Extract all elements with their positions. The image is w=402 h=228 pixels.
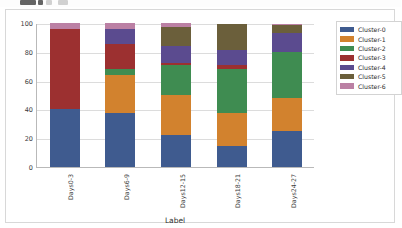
bar-segment-Cluster-1-Days6-9[interactable] <box>105 75 135 113</box>
x-tick-label: Days12-15 <box>179 174 186 208</box>
bar-Days12-15[interactable] <box>161 23 191 167</box>
bar-segment-Cluster-0-Days18-21[interactable] <box>217 146 247 167</box>
bar-segment-Cluster-6-Days6-9[interactable] <box>105 23 135 29</box>
bar-segment-Cluster-2-Days24-27[interactable] <box>272 52 302 98</box>
bar-segment-Cluster-5-Days12-15[interactable] <box>161 27 191 46</box>
bar-segment-Cluster-1-Days18-21[interactable] <box>217 113 247 146</box>
bar-segment-Cluster-5-Days18-21[interactable] <box>217 24 247 50</box>
legend-label: Cluster-3 <box>358 54 386 61</box>
bar-Days18-21[interactable] <box>217 24 247 167</box>
legend-label: Cluster-4 <box>358 64 386 71</box>
legend-item-Cluster-3[interactable]: Cluster-3 <box>340 53 398 62</box>
bar-segment-Cluster-5-Days24-27[interactable] <box>272 25 302 33</box>
bar-segment-Cluster-2-Days18-21[interactable] <box>217 69 247 113</box>
y-tick-label: 80 <box>25 49 33 57</box>
y-tick-label: 40 <box>25 106 33 114</box>
legend-item-Cluster-1[interactable]: Cluster-1 <box>340 34 398 43</box>
x-axis-title: Label <box>36 216 314 225</box>
legend-swatch-Cluster-6 <box>340 83 354 89</box>
bar-segment-Cluster-2-Days6-9[interactable] <box>105 69 135 75</box>
bar-segment-Cluster-6-Days12-15[interactable] <box>161 23 191 27</box>
bar-segment-Cluster-2-Days12-15[interactable] <box>161 65 191 95</box>
bar-segment-Cluster-0-Days0-3[interactable] <box>50 109 80 167</box>
bar-segment-Cluster-1-Days24-27[interactable] <box>272 98 302 130</box>
bar-segment-Cluster-6-Days0-3[interactable] <box>50 23 80 29</box>
legend-label: Cluster-1 <box>358 36 386 43</box>
bar-segment-Cluster-3-Days6-9[interactable] <box>105 44 135 69</box>
bar-segment-Cluster-4-Days6-9[interactable] <box>105 29 135 45</box>
legend-swatch-Cluster-2 <box>340 46 354 52</box>
bar-segment-Cluster-1-Days12-15[interactable] <box>161 95 191 135</box>
toolbar-tool-3[interactable] <box>46 0 52 5</box>
legend-item-Cluster-0[interactable]: Cluster-0 <box>340 25 398 34</box>
bar-segment-Cluster-3-Days18-21[interactable] <box>217 65 247 69</box>
y-tick-label: 60 <box>25 78 33 86</box>
legend-item-Cluster-5[interactable]: Cluster-5 <box>340 72 398 81</box>
legend-label: Cluster-0 <box>358 26 386 33</box>
bar-segment-Cluster-0-Days12-15[interactable] <box>161 135 191 167</box>
x-tick-label: Days24-27 <box>290 174 297 208</box>
y-tick-label: 20 <box>25 135 33 143</box>
toolbar-tool-1[interactable] <box>20 0 36 5</box>
bar-segment-Cluster-4-Days24-27[interactable] <box>272 33 302 52</box>
bar-segment-Cluster-4-Days12-15[interactable] <box>161 46 191 63</box>
toolbar-strip <box>0 0 401 7</box>
legend-item-Cluster-6[interactable]: Cluster-6 <box>340 81 398 90</box>
x-tick-label: Days18-21 <box>234 174 241 208</box>
bar-segment-Cluster-3-Days12-15[interactable] <box>161 63 191 65</box>
legend-item-Cluster-2[interactable]: Cluster-2 <box>340 44 398 53</box>
x-tick-label: Days0-3 <box>67 174 74 200</box>
toolbar-tool-4[interactable] <box>58 0 68 5</box>
bar-Days6-9[interactable] <box>105 23 135 167</box>
legend-swatch-Cluster-4 <box>340 65 354 71</box>
x-tick-label: Days6-9 <box>123 174 130 200</box>
chart-legend: Cluster-0Cluster-1Cluster-2Cluster-3Clus… <box>336 21 402 95</box>
legend-swatch-Cluster-0 <box>340 27 354 33</box>
bar-segment-Cluster-0-Days24-27[interactable] <box>272 131 302 167</box>
legend-label: Cluster-5 <box>358 73 386 80</box>
legend-swatch-Cluster-3 <box>340 55 354 61</box>
bar-segment-Cluster-6-Days24-27[interactable] <box>272 24 302 25</box>
legend-label: Cluster-2 <box>358 45 386 52</box>
bar-Days24-27[interactable] <box>272 24 302 167</box>
bar-segment-Cluster-4-Days18-21[interactable] <box>217 50 247 65</box>
legend-item-Cluster-4[interactable]: Cluster-4 <box>340 63 398 72</box>
y-tick-label: 0 <box>29 164 33 172</box>
legend-swatch-Cluster-5 <box>340 74 354 80</box>
bar-segment-Cluster-3-Days0-3[interactable] <box>50 29 80 109</box>
legend-swatch-Cluster-1 <box>340 36 354 42</box>
toolbar-tool-2[interactable] <box>38 0 43 5</box>
bar-segment-Cluster-0-Days6-9[interactable] <box>105 113 135 167</box>
legend-label: Cluster-6 <box>358 83 386 90</box>
plot-area: 020406080100Days0-3Days6-9Days12-15Days1… <box>36 24 314 168</box>
bar-Days0-3[interactable] <box>50 23 80 167</box>
y-tick-label: 100 <box>21 20 33 28</box>
chart-figure: 020406080100Days0-3Days6-9Days12-15Days1… <box>5 9 395 223</box>
